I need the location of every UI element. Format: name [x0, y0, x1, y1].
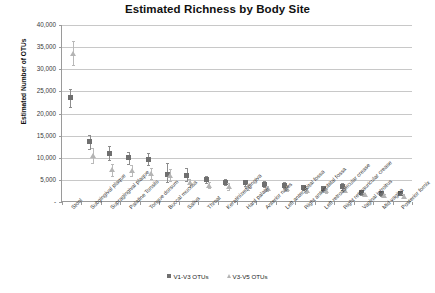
chart-title: Estimated Richness by Body Site [0, 3, 435, 15]
gridline [62, 47, 412, 48]
data-point-triangle [206, 183, 212, 188]
data-point-square [87, 139, 92, 144]
error-bar-cap [227, 190, 230, 191]
y-axis-tick-label: 15,000 [10, 132, 56, 139]
data-point-triangle [401, 194, 407, 199]
data-point-square [68, 95, 73, 100]
legend-triangle-icon [227, 274, 231, 278]
data-point-triangle [90, 153, 96, 158]
y-axis-tick-label: 20,000 [10, 110, 56, 117]
gridline [62, 25, 412, 26]
data-point-triangle [129, 168, 135, 173]
legend-item[interactable]: V1-V3 OTUs [167, 272, 208, 280]
x-axis-tick-mark [62, 202, 63, 205]
error-bar-cap [88, 149, 91, 150]
y-axis-tick-mark [59, 180, 62, 181]
y-axis-tick-mark [59, 47, 62, 48]
error-bar-cap [91, 148, 94, 149]
y-axis-tick-label: 5,000 [10, 176, 56, 183]
data-point-square [126, 155, 131, 160]
legend-square-icon [167, 274, 171, 278]
error-bar-cap [147, 153, 150, 154]
y-axis-tick-label: 30,000 [10, 65, 56, 72]
gridline [62, 91, 412, 92]
data-point-triangle [70, 51, 76, 56]
error-bar-cap [127, 152, 130, 153]
data-point-triangle [167, 173, 173, 178]
error-bar-cap [72, 65, 75, 66]
error-bar-cap [169, 169, 172, 170]
data-point-triangle [109, 167, 115, 172]
data-point-square [184, 173, 189, 178]
y-axis-tick-mark [59, 25, 62, 26]
error-bar-cap [111, 164, 114, 165]
y-axis-tick-label: 25,000 [10, 87, 56, 94]
error-bar-cap [69, 89, 72, 90]
error-bar-cap [166, 182, 169, 183]
x-axis-tick-mark [237, 202, 238, 205]
data-point-triangle [381, 193, 387, 198]
error-bar-cap [185, 168, 188, 169]
y-axis-tick-label: 10,000 [10, 154, 56, 161]
gridline [62, 158, 412, 159]
error-bar-cap [130, 165, 133, 166]
gridline [62, 136, 412, 137]
error-bar-cap [147, 165, 150, 166]
error-bar-cap [150, 168, 153, 169]
error-bar-cap [72, 41, 75, 42]
data-point-square [107, 151, 112, 156]
data-point-square [146, 157, 151, 162]
data-point-triangle [226, 184, 232, 189]
gridline [62, 114, 412, 115]
error-bar-cap [130, 176, 133, 177]
y-axis-tick-mark [59, 91, 62, 92]
legend-item-label: V3-V5 OTUs [233, 273, 268, 280]
y-axis-tick-label: - [10, 198, 56, 205]
error-bar-cap [208, 188, 211, 189]
chart-legend: V1-V3 OTUsV3-V5 OTUs [0, 272, 435, 280]
error-bar-cap [69, 107, 72, 108]
error-bar-cap [108, 160, 111, 161]
y-axis-tick-mark [59, 158, 62, 159]
legend-item-label: V1-V3 OTUs [173, 273, 208, 280]
y-axis-tick-mark [59, 136, 62, 137]
gridline [62, 69, 412, 70]
x-axis-tick-mark [198, 202, 199, 205]
x-axis-tick-mark [373, 202, 374, 205]
y-axis-tick-mark [59, 69, 62, 70]
error-bar-cap [108, 146, 111, 147]
error-bar-cap [88, 135, 91, 136]
error-bar-cap [111, 176, 114, 177]
chart-container: Estimated Richness by Body Site Estimate… [0, 0, 435, 293]
error-bar-cap [91, 163, 94, 164]
x-axis-tick-mark [412, 202, 413, 205]
y-axis-tick-label: 40,000 [10, 21, 56, 28]
y-axis-tick-label: 35,000 [10, 43, 56, 50]
error-bar-cap [166, 163, 169, 164]
error-bar-cap [150, 179, 153, 180]
y-axis-tick-mark [59, 114, 62, 115]
legend-item[interactable]: V3-V5 OTUs [227, 272, 268, 280]
